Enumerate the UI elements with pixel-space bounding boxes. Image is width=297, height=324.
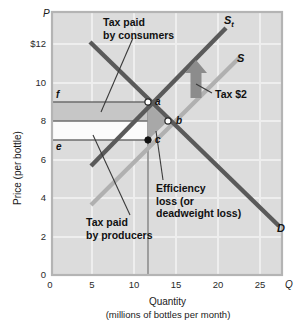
x-tick-20: 20 bbox=[208, 279, 228, 290]
y-tick-2: 2 bbox=[8, 231, 46, 242]
point-label-f: f bbox=[56, 89, 59, 100]
x-tick-25: 25 bbox=[250, 279, 270, 290]
point-label-a: a bbox=[155, 96, 161, 107]
annotation-tax-producers-line1: Tax paid bbox=[86, 216, 153, 229]
point-label-b: b bbox=[176, 115, 182, 126]
x-tick-0: 0 bbox=[40, 279, 60, 290]
annotation-tax-consumers-line1: Tax paid bbox=[103, 16, 174, 29]
x-axis-title: Quantity bbox=[110, 296, 225, 307]
y-tick-12: $12 bbox=[8, 38, 46, 49]
annotation-tax-paid-by-producers: Tax paid by producers bbox=[86, 216, 153, 241]
point-label-e: e bbox=[56, 141, 62, 152]
annotation-tax-producers-line2: by producers bbox=[86, 229, 153, 242]
point-b-marker bbox=[165, 118, 171, 124]
x-tick-15: 15 bbox=[166, 279, 186, 290]
curve-label-supply-tax-subscript: t bbox=[231, 20, 234, 29]
annotation-tax-consumers-line2: by consumers bbox=[103, 29, 174, 42]
curve-label-demand: D bbox=[277, 222, 285, 234]
x-axis-subtitle: (millions of bottles per month) bbox=[73, 309, 263, 320]
annotation-efficiency-line1: Efficiency bbox=[156, 182, 241, 195]
point-label-c: c bbox=[155, 134, 161, 145]
figure-container: P Q $12 10 8 6 4 2 0 0 5 10 15 20 25 Pri… bbox=[0, 0, 297, 324]
curve-label-supply: S bbox=[237, 52, 244, 64]
x-tick-5: 5 bbox=[82, 279, 102, 290]
annotation-tax-amount: Tax $2 bbox=[215, 88, 247, 101]
x-tick-10: 10 bbox=[124, 279, 144, 290]
point-c-marker bbox=[145, 137, 151, 143]
annotation-efficiency-loss: Efficiency loss (or deadweight loss) bbox=[156, 182, 241, 220]
region-tax-paid-by-consumers bbox=[52, 102, 148, 121]
curve-label-supply-tax: St bbox=[224, 14, 234, 29]
annotation-efficiency-line3: deadweight loss) bbox=[156, 207, 241, 220]
y-tick-8: 8 bbox=[8, 115, 46, 126]
point-a-marker bbox=[145, 99, 151, 105]
y-axis-symbol: P bbox=[43, 8, 50, 19]
y-axis-title: Price (per bottle) bbox=[12, 131, 23, 205]
annotation-efficiency-line2: loss (or bbox=[156, 195, 241, 208]
x-axis-symbol: Q bbox=[285, 279, 293, 290]
annotation-tax-paid-by-consumers: Tax paid by consumers bbox=[103, 16, 174, 41]
y-tick-10: 10 bbox=[8, 77, 46, 88]
